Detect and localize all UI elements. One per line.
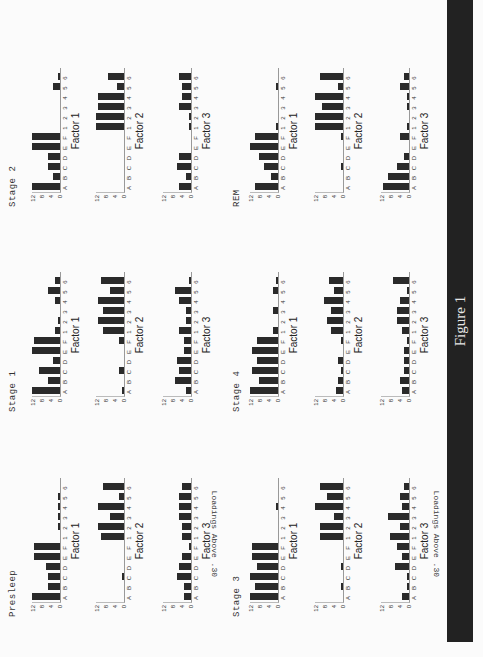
- y-tick-label: 4: [397, 399, 403, 402]
- bar: [400, 133, 409, 140]
- y-tick-label: 8: [39, 605, 45, 608]
- x-tick-label: F: [126, 133, 132, 143]
- x-tick-label: 1: [193, 327, 199, 337]
- x-tick-label: 3: [126, 307, 132, 317]
- x-tick-label: 2: [193, 523, 199, 533]
- x-axis-labels: ABCDEF123456: [411, 69, 419, 193]
- x-tick-label: 2: [280, 113, 286, 123]
- x-tick-label: 4: [126, 297, 132, 307]
- bar: [338, 83, 343, 90]
- bar: [34, 337, 60, 344]
- bar: [252, 543, 278, 550]
- bar: [177, 357, 191, 364]
- x-tick-label: 5: [126, 287, 132, 297]
- x-tick-label: 2: [280, 317, 286, 327]
- plot-area: [315, 478, 344, 603]
- bar: [53, 173, 60, 180]
- bar: [336, 387, 343, 394]
- y-tick-label: 12: [313, 399, 319, 406]
- x-tick-label: 2: [411, 523, 417, 533]
- bar: [110, 513, 124, 520]
- figure-caption: Figure 1: [447, 0, 473, 642]
- x-tick-label: 5: [345, 287, 351, 297]
- x-tick-label: 6: [280, 73, 286, 83]
- bar: [276, 123, 278, 130]
- y-tick-label: 12: [379, 195, 385, 202]
- bar: [179, 367, 191, 374]
- x-tick-label: 4: [126, 503, 132, 513]
- bar: [271, 173, 278, 180]
- y-tick-label: 0: [188, 399, 194, 402]
- x-tick-label: 3: [411, 307, 417, 317]
- bar: [315, 123, 343, 130]
- x-tick-label: 3: [62, 307, 68, 317]
- x-tick-label: D: [126, 563, 132, 573]
- plot-area: [250, 68, 279, 193]
- x-tick-label: 1: [345, 123, 351, 133]
- bar: [179, 183, 191, 190]
- bar: [341, 583, 343, 590]
- x-tick-label: 4: [280, 297, 286, 307]
- bar: [320, 523, 343, 530]
- bar: [250, 573, 278, 580]
- x-tick-label: D: [280, 563, 286, 573]
- y-tick-label: 0: [121, 605, 127, 608]
- y-tick-label: 0: [275, 399, 281, 402]
- bar: [58, 493, 60, 500]
- factor-label: Factor 3: [419, 53, 430, 209]
- bar: [177, 573, 191, 580]
- bar: [32, 593, 60, 600]
- x-tick-label: 3: [280, 307, 286, 317]
- x-tick-label: 5: [280, 83, 286, 93]
- bar: [402, 593, 409, 600]
- x-tick-label: B: [280, 583, 286, 593]
- y-tick-label: 12: [248, 605, 254, 612]
- x-tick-label: 4: [193, 503, 199, 513]
- y-tick-label: 8: [39, 195, 45, 198]
- factor-label: Factor 2: [353, 257, 364, 413]
- x-tick-label: C: [411, 367, 417, 377]
- x-tick-label: E: [62, 143, 68, 153]
- bar: [250, 143, 278, 150]
- x-tick-label: C: [126, 163, 132, 173]
- bar: [404, 483, 409, 490]
- x-tick-label: E: [193, 347, 199, 357]
- bar: [276, 503, 278, 510]
- x-tick-label: E: [280, 347, 286, 357]
- stage-title: REM: [232, 189, 242, 207]
- plot-area: [250, 272, 279, 397]
- bar: [324, 297, 343, 304]
- x-tick-label: 3: [411, 103, 417, 113]
- bar: [179, 327, 191, 334]
- x-tick-label: D: [62, 563, 68, 573]
- bar: [334, 287, 343, 294]
- bar: [55, 327, 60, 334]
- bar-chart-panel: 12840ABCDEF123456Factor 1: [30, 59, 92, 209]
- bar: [58, 513, 60, 520]
- x-tick-label: D: [345, 153, 351, 163]
- y-tick-label: 4: [331, 399, 337, 402]
- bar-chart-panel: 12840ABCDEF123456Factor 2: [94, 469, 156, 619]
- plot-area: [163, 68, 192, 193]
- x-tick-label: E: [62, 553, 68, 563]
- bar: [182, 83, 191, 90]
- y-tick-label: 0: [57, 399, 63, 402]
- x-tick-label: 6: [411, 483, 417, 493]
- bar: [189, 543, 191, 550]
- x-tick-label: 1: [62, 327, 68, 337]
- x-tick-label: F: [345, 133, 351, 143]
- y-tick-label: 0: [188, 195, 194, 198]
- x-tick-label: C: [280, 573, 286, 583]
- bar: [175, 287, 191, 294]
- y-tick-label: 8: [103, 605, 109, 608]
- bar: [404, 357, 409, 364]
- bar: [179, 563, 191, 570]
- x-tick-label: D: [411, 357, 417, 367]
- x-tick-label: F: [62, 543, 68, 553]
- y-axis-ticks: 12840: [30, 399, 60, 413]
- y-axis-ticks: 12840: [94, 605, 124, 619]
- x-tick-label: D: [345, 563, 351, 573]
- y-tick-label: 8: [39, 399, 45, 402]
- y-tick-label: 4: [397, 605, 403, 608]
- bar: [182, 93, 191, 100]
